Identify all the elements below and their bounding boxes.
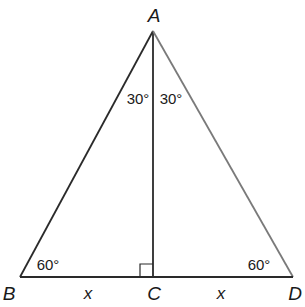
vertex-label-b: B xyxy=(3,283,16,304)
segment-ad xyxy=(153,31,293,277)
vertex-label-d: D xyxy=(288,283,302,304)
angle-label-abc: 60° xyxy=(37,256,60,273)
side-label-bc: x xyxy=(83,284,93,303)
angle-label-adc: 60° xyxy=(248,256,271,273)
angle-label-bac: 30° xyxy=(127,90,150,107)
side-label-cd: x xyxy=(216,284,226,303)
right-angle-marker xyxy=(140,264,153,277)
triangle-diagram: A B C D 30° 30° 60° 60° x x xyxy=(0,0,305,307)
vertex-label-a: A xyxy=(147,5,161,26)
vertex-label-c: C xyxy=(147,283,161,304)
segment-ab xyxy=(20,31,153,277)
angle-label-cad: 30° xyxy=(160,90,183,107)
